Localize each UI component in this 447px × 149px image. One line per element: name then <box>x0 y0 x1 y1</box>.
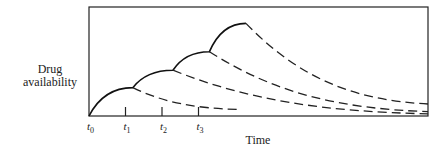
accumulation-curve <box>89 23 246 116</box>
curves <box>89 23 428 116</box>
x-ticks: t0t1t2t3 <box>87 107 204 135</box>
x-axis-label: Time <box>246 133 271 147</box>
decay-curve-4 <box>246 23 428 104</box>
plot-frame <box>89 7 428 116</box>
x-tick-label: t2 <box>160 120 167 135</box>
decay-curve-3 <box>209 52 428 112</box>
x-tick-label: t1 <box>124 120 131 135</box>
x-tick-label: t3 <box>197 120 204 135</box>
y-axis-label-line-1: Drug <box>38 62 63 76</box>
drug-availability-chart: Drug availability Time t0t1t2t3 <box>0 0 447 149</box>
decay-curve-2 <box>173 70 428 114</box>
decay-curve-1 <box>133 88 239 110</box>
y-axis-label-line-2: availability <box>23 75 77 89</box>
x-tick-label: t0 <box>87 120 94 135</box>
